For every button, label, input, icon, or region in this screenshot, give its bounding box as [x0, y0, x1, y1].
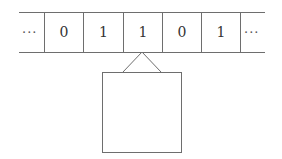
tape-cell-2-under-head: 1	[139, 24, 148, 40]
tape-cell-1: 1	[99, 24, 108, 40]
tape-left-ellipsis: ···	[22, 25, 37, 40]
tape: ··· 0 1 1 0 1 ···	[19, 12, 265, 53]
read-write-head	[103, 52, 182, 153]
head-pointer-triangle	[123, 52, 161, 72]
tape-right-ellipsis: ···	[244, 25, 259, 40]
head-control-box	[103, 73, 182, 153]
turing-machine-diagram: ··· 0 1 1 0 1 ···	[0, 0, 282, 159]
tape-cell-3: 0	[178, 24, 187, 40]
tape-cell-0: 0	[60, 24, 69, 40]
tape-cell-4: 1	[217, 24, 226, 40]
